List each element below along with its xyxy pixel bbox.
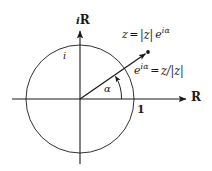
imaginary-axis-label-r: R	[80, 13, 90, 27]
unit-dir-rhs: z/|z|	[161, 64, 184, 77]
unit-dir-exponent: iα	[141, 62, 149, 71]
unit-imaginary-label: i	[63, 51, 66, 61]
real-axis-label: R	[191, 91, 201, 103]
z-polar-exp-base: e	[153, 28, 162, 41]
imaginary-axis-label: iR	[76, 14, 90, 26]
z-polar-lhs: z	[122, 28, 128, 41]
complex-plane-figure: iR R i 1 α z=|z|eiα eiα=z/|z|	[0, 0, 212, 171]
z-polar-exponent: iα	[162, 26, 170, 35]
angle-alpha-label: α	[104, 84, 111, 94]
z-point-dot	[146, 50, 150, 54]
unit-direction-annotation: eiα=z/|z|	[134, 63, 184, 76]
z-polar-modulus: |z|	[140, 28, 153, 41]
z-polar-equals: =	[128, 28, 140, 41]
unit-real-label: 1	[137, 104, 145, 115]
angle-arc	[116, 76, 122, 99]
unit-dir-equals: =	[149, 64, 161, 77]
z-polar-form-annotation: z=|z|eiα	[122, 27, 170, 40]
